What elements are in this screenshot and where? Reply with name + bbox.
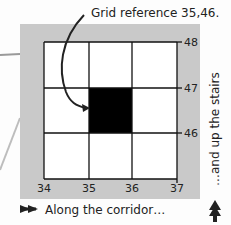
x-tick-label: 37 [170, 182, 184, 195]
arrow-up-double-icon [209, 200, 221, 222]
caption-side: …and up the stairs [208, 72, 222, 186]
grid-reference-diagram: 34 35 36 37 48 47 46 Grid reference 35,4… [0, 0, 231, 225]
decorative-line [0, 118, 20, 170]
highlighted-square [89, 88, 132, 133]
x-tick-label: 34 [37, 182, 51, 195]
decorative-line [0, 54, 20, 55]
caption-top: Grid reference 35,46. [91, 6, 219, 20]
x-tick-label: 36 [125, 182, 139, 195]
x-tick-label: 35 [82, 182, 96, 195]
y-tick-label: 48 [184, 36, 198, 49]
arrow-right-double-icon [20, 205, 38, 213]
caption-bottom: Along the corridor… [45, 203, 165, 217]
y-tick-label: 47 [184, 82, 198, 95]
y-tick-label: 46 [184, 127, 198, 140]
